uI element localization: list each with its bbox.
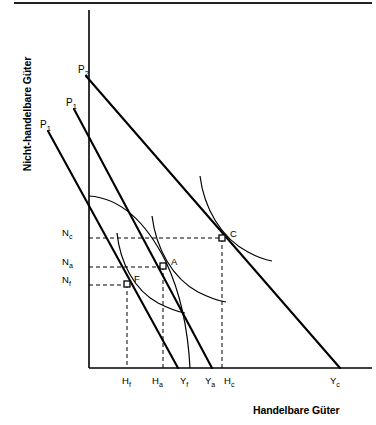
x-tick-Hf: Hf <box>122 375 131 388</box>
curves-group <box>89 176 272 368</box>
point-marker-F <box>124 281 130 287</box>
x-axis-title: Handelbare Güter <box>253 404 340 416</box>
point-marker-A <box>160 263 166 269</box>
price-line-p1-inner <box>48 131 178 368</box>
x-tick-Ha: Ha <box>152 375 163 388</box>
y-tick-Na: Na <box>62 256 73 269</box>
x-tick-Ya: Ya <box>205 375 215 388</box>
point-label-A: A <box>171 256 177 267</box>
x-tick-Yf: Yf <box>180 375 188 388</box>
point-label-F: F <box>134 273 140 284</box>
price-line-label-p1-inner: P1 <box>40 119 51 133</box>
price-line-p2-outer <box>86 76 340 368</box>
point-marker-C <box>219 235 225 241</box>
price-line-label-p1-middle: P1 <box>66 97 77 111</box>
price-line-p1-middle <box>74 109 212 368</box>
diagram-canvas <box>0 0 376 425</box>
axes-group <box>89 10 372 368</box>
x-tick-Hc: Hc <box>224 375 234 388</box>
y-axis-title: Nicht-handelbare Güter <box>21 44 33 184</box>
point-label-C: C <box>230 228 237 239</box>
price-lines-group <box>48 76 340 368</box>
x-tick-Yc: Yc <box>330 375 340 388</box>
figure-container: Nicht-handelbare Güter Handelbare Güter … <box>0 0 376 425</box>
y-tick-Nc: Nc <box>62 227 72 240</box>
y-tick-Nf: Nf <box>62 274 71 287</box>
price-line-label-p2-outer: P2 <box>78 64 89 78</box>
